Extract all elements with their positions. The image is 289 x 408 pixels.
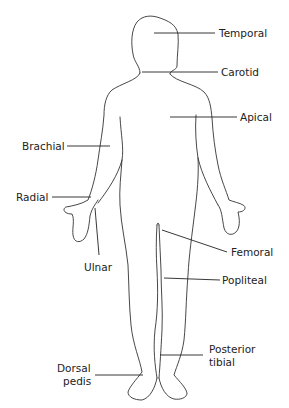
label-ulnar: Ulnar <box>84 261 113 273</box>
crotch <box>157 223 159 225</box>
left-leg-outer <box>120 160 157 400</box>
label-posterior-tibial-line1: Posterior <box>209 343 256 355</box>
label-apical: Apical <box>240 111 272 123</box>
right-side-outline <box>170 74 245 234</box>
femoral-leader <box>162 230 227 252</box>
labels: Temporal Carotid Apical Brachial Radial … <box>16 27 273 387</box>
pulse-points-diagram: Temporal Carotid Apical Brachial Radial … <box>0 0 289 408</box>
head-outline <box>132 16 178 74</box>
label-femoral: Femoral <box>231 246 273 258</box>
left-inner-arm <box>98 117 123 203</box>
label-radial: Radial <box>16 191 48 203</box>
left-leg-inner <box>154 225 157 378</box>
label-carotid: Carotid <box>221 66 259 78</box>
label-dorsal-pedis-line2: pedis <box>63 375 91 387</box>
left-side-outline <box>64 73 140 242</box>
label-temporal: Temporal <box>218 27 267 39</box>
popliteal-leader <box>164 278 220 280</box>
label-dorsal-pedis-line1: Dorsal <box>57 362 91 374</box>
label-popliteal: Popliteal <box>222 274 267 286</box>
label-brachial: Brachial <box>22 140 65 152</box>
label-posterior-tibial-line2: tibial <box>209 356 235 368</box>
ulnar-leader <box>95 208 99 255</box>
right-inner-arm <box>196 115 218 205</box>
